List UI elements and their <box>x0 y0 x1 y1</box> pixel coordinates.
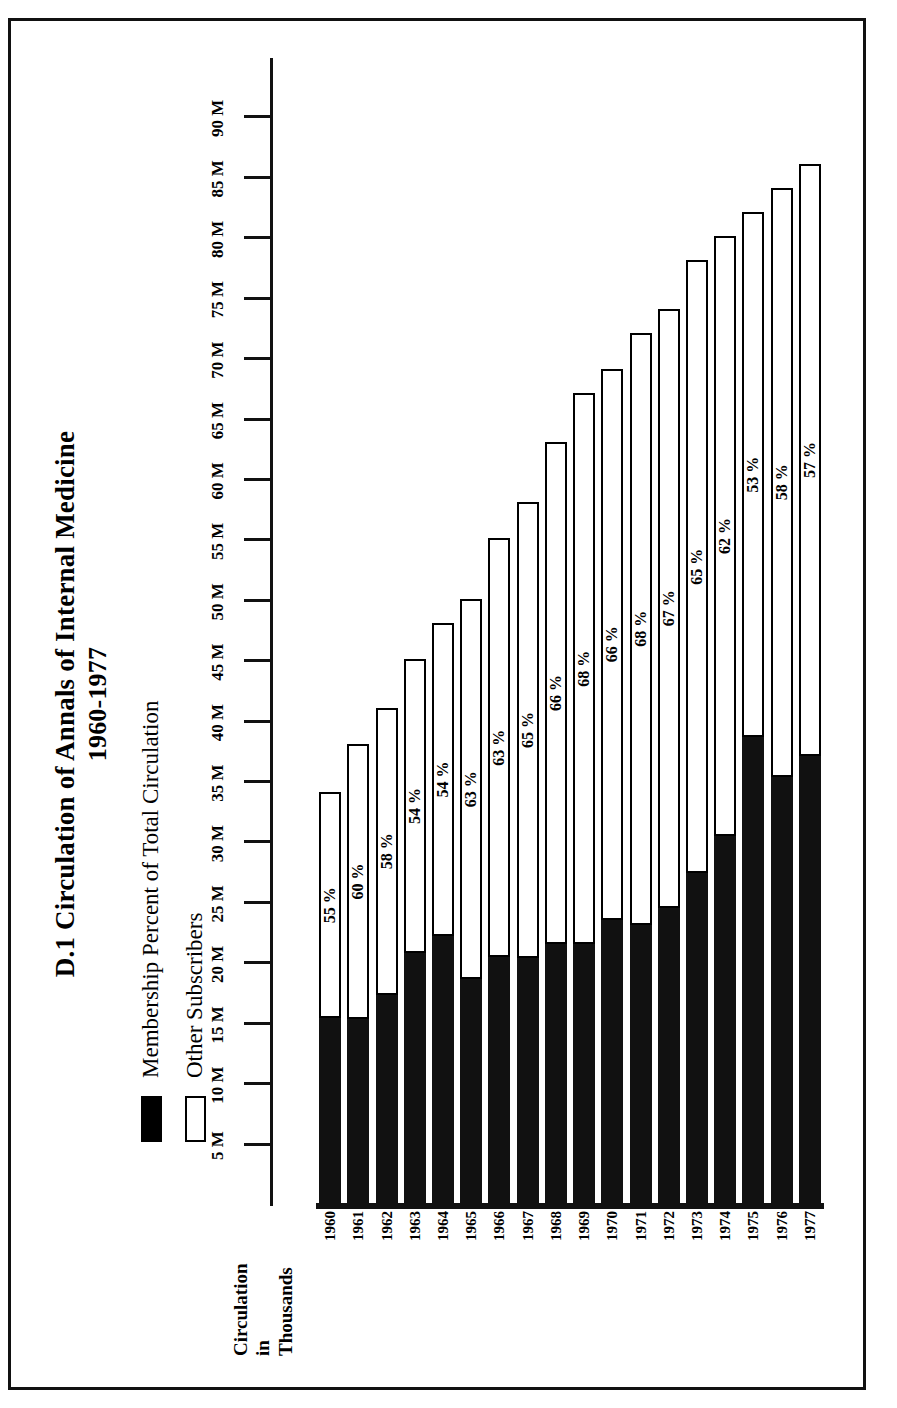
category-axis-label: 1972 <box>657 1211 679 1267</box>
value-axis-tick <box>244 418 270 421</box>
bar-segment-other-subscribers[interactable]: 57 % <box>798 164 820 756</box>
bar-row[interactable]: 196866 % <box>544 55 566 1203</box>
bar-segment-other-subscribers[interactable]: 65 % <box>686 260 708 873</box>
bar-row[interactable]: 197267 % <box>657 55 679 1203</box>
value-axis-tick-label: 60 M <box>208 462 228 499</box>
bar-row[interactable]: 197553 % <box>742 55 764 1203</box>
value-axis: 90 M85 M80 M75 M70 M65 M60 M55 M50 M45 M… <box>270 58 273 1206</box>
value-axis-tick <box>244 1082 270 1085</box>
value-axis-tick-label: 50 M <box>208 583 228 620</box>
category-axis-label: 1963 <box>403 1211 425 1267</box>
bar-row[interactable]: 196663 % <box>488 55 510 1203</box>
value-axis-tick <box>244 599 270 602</box>
bar-segment-other-subscribers[interactable]: 55 % <box>319 792 341 1018</box>
bar-segment-other-subscribers[interactable]: 60 % <box>347 744 369 1020</box>
value-axis-tick <box>244 115 270 118</box>
bar-value-label: 60 % <box>349 864 367 900</box>
bar-segment-other-subscribers[interactable]: 62 % <box>714 236 736 835</box>
bar-value-label: 62 % <box>716 518 734 554</box>
bar-value-label: 54 % <box>434 762 452 798</box>
value-axis-title-line3: Thousands <box>274 1206 296 1356</box>
category-axis-label: 1968 <box>544 1211 566 1267</box>
value-axis-tick <box>244 297 270 300</box>
value-axis-tick <box>244 176 270 179</box>
category-axis-label: 1960 <box>319 1211 341 1267</box>
value-axis-tick <box>244 901 270 904</box>
bar-segment-other-subscribers[interactable]: 54 % <box>432 623 454 936</box>
bar-value-label: 53 % <box>744 457 762 493</box>
value-axis-tick <box>244 538 270 541</box>
value-axis-tick-label: 55 M <box>208 523 228 560</box>
bar-segment-other-subscribers[interactable]: 53 % <box>742 212 764 737</box>
value-axis-title-line1: Circulation <box>230 1206 252 1356</box>
value-axis-tick-label: 40 M <box>208 704 228 741</box>
bars-container: 196055 %196160 %196258 %196354 %196454 %… <box>316 55 824 1203</box>
category-axis-label: 1962 <box>375 1211 397 1267</box>
value-axis-tick <box>244 659 270 662</box>
value-axis-tick-label: 35 M <box>208 764 228 801</box>
category-axis-label: 1970 <box>601 1211 623 1267</box>
bar-row[interactable]: 196354 % <box>403 55 425 1203</box>
bar-row[interactable]: 196968 % <box>573 55 595 1203</box>
category-axis-label: 1961 <box>347 1211 369 1267</box>
bar-row[interactable]: 197168 % <box>629 55 651 1203</box>
value-axis-tick <box>244 780 270 783</box>
value-axis-tick <box>244 357 270 360</box>
category-axis-label: 1973 <box>686 1211 708 1267</box>
bar-value-label: 66 % <box>546 675 564 711</box>
bar-segment-other-subscribers[interactable]: 66 % <box>544 442 566 944</box>
category-axis-label: 1971 <box>629 1211 651 1267</box>
bar-segment-other-subscribers[interactable]: 65 % <box>516 502 538 958</box>
bar-row[interactable]: 197462 % <box>714 55 736 1203</box>
bar-value-label: 67 % <box>659 590 677 626</box>
value-axis-tick-label: 80 M <box>208 221 228 258</box>
bar-value-label: 55 % <box>321 887 339 923</box>
value-axis-tick <box>244 478 270 481</box>
value-axis-tick-label: 70 M <box>208 341 228 378</box>
bar-value-label: 68 % <box>575 651 593 687</box>
bar-segment-other-subscribers[interactable]: 68 % <box>629 333 651 925</box>
bar-segment-other-subscribers[interactable]: 66 % <box>601 369 623 919</box>
value-axis-tick-label: 30 M <box>208 825 228 862</box>
value-axis-tick <box>244 840 270 843</box>
bar-segment-other-subscribers[interactable]: 63 % <box>488 538 510 957</box>
bar-segment-other-subscribers[interactable]: 58 % <box>375 708 397 995</box>
bar-segment-other-subscribers[interactable]: 67 % <box>657 309 679 908</box>
category-axis-label: 1966 <box>488 1211 510 1267</box>
category-axis-label: 1976 <box>770 1211 792 1267</box>
bar-segment-other-subscribers[interactable]: 63 % <box>460 599 482 980</box>
value-axis-tick <box>244 1022 270 1025</box>
bar-row[interactable]: 197066 % <box>601 55 623 1203</box>
bar-segment-other-subscribers[interactable]: 68 % <box>573 393 595 944</box>
bar-row[interactable]: 196160 % <box>347 55 369 1203</box>
value-axis-tick-label: 65 M <box>208 402 228 439</box>
bar-row[interactable]: 197757 % <box>798 55 820 1203</box>
category-axis-label: 1965 <box>460 1211 482 1267</box>
value-axis-tick-label: 45 M <box>208 644 228 681</box>
bar-row[interactable]: 196258 % <box>375 55 397 1203</box>
category-axis-baseline <box>316 1203 824 1209</box>
bar-row[interactable]: 196563 % <box>460 55 482 1203</box>
bar-segment-other-subscribers[interactable]: 54 % <box>403 659 425 953</box>
bar-value-label: 68 % <box>631 611 649 647</box>
bar-value-label: 66 % <box>603 626 621 662</box>
bar-segment-other-subscribers[interactable]: 58 % <box>770 188 792 777</box>
bar-value-label: 63 % <box>490 730 508 766</box>
figure-page: D.1 Circulation of Annals of Internal Me… <box>0 0 897 1408</box>
category-axis-label: 1964 <box>432 1211 454 1267</box>
value-axis-tick <box>244 961 270 964</box>
bar-row[interactable]: 197658 % <box>770 55 792 1203</box>
category-axis-label: 1974 <box>714 1211 736 1267</box>
bar-row[interactable]: 196055 % <box>319 55 341 1203</box>
category-axis-label: 1975 <box>742 1211 764 1267</box>
bar-row[interactable]: 196765 % <box>516 55 538 1203</box>
value-axis-tick-label: 25 M <box>208 885 228 922</box>
bar-row[interactable]: 197365 % <box>686 55 708 1203</box>
rotated-figure-stage: D.1 Circulation of Annals of Internal Me… <box>34 34 864 1374</box>
value-axis-tick-label: 15 M <box>208 1006 228 1043</box>
value-axis-tick-label: 75 M <box>208 281 228 318</box>
bar-value-label: 54 % <box>405 788 423 824</box>
value-axis-tick <box>244 720 270 723</box>
bar-row[interactable]: 196454 % <box>432 55 454 1203</box>
bar-value-label: 65 % <box>688 549 706 585</box>
